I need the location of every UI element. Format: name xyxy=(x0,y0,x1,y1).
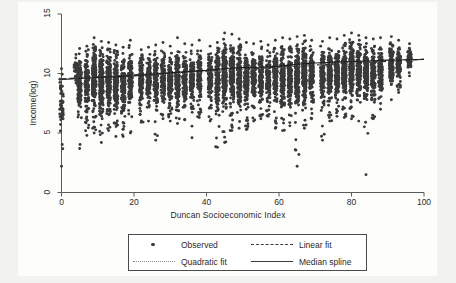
data-point xyxy=(261,87,264,90)
data-point-outlier xyxy=(379,36,382,39)
data-point xyxy=(407,66,410,69)
data-point-outlier xyxy=(223,141,226,144)
data-point xyxy=(224,87,227,90)
data-point xyxy=(79,86,82,89)
data-point-outlier xyxy=(176,122,179,125)
data-point xyxy=(373,45,376,48)
data-point xyxy=(297,104,300,107)
data-point xyxy=(351,94,354,97)
data-point xyxy=(265,91,268,94)
data-point xyxy=(146,85,149,88)
data-point xyxy=(230,59,233,62)
data-point xyxy=(113,108,116,111)
data-point-outlier xyxy=(288,38,291,41)
x-tick-label: 60 xyxy=(267,197,291,207)
data-point-outlier xyxy=(183,42,186,45)
data-point xyxy=(78,60,81,63)
data-point xyxy=(342,80,345,83)
data-point xyxy=(222,100,225,103)
data-point-outlier xyxy=(129,39,132,42)
data-point xyxy=(156,101,159,104)
data-point-outlier xyxy=(147,120,150,123)
data-point-outlier xyxy=(321,40,324,43)
data-point xyxy=(351,48,354,51)
data-point xyxy=(281,87,284,90)
legend-entry-quadratic-fit[interactable]: Quadratic fit xyxy=(131,253,227,270)
data-point xyxy=(183,60,186,63)
data-point xyxy=(279,102,282,105)
data-point-outlier xyxy=(267,115,270,118)
data-point xyxy=(251,71,254,74)
data-point xyxy=(146,90,149,93)
data-point xyxy=(312,98,315,101)
data-point xyxy=(192,85,195,88)
data-point xyxy=(120,87,123,90)
data-point xyxy=(95,69,98,72)
data-point-outlier xyxy=(303,34,306,37)
data-point xyxy=(274,69,277,72)
data-point xyxy=(302,124,305,127)
data-point-outlier xyxy=(372,38,375,41)
legend-entry-median-spline[interactable]: Median spline xyxy=(249,253,351,270)
data-point xyxy=(138,99,141,102)
data-point xyxy=(309,85,312,88)
data-point-outlier xyxy=(336,115,339,118)
data-point xyxy=(280,80,283,83)
data-point xyxy=(273,58,276,61)
data-point xyxy=(279,53,282,56)
data-point-outlier xyxy=(238,38,241,41)
data-point xyxy=(294,138,297,141)
data-point xyxy=(409,62,412,65)
x-tick-label: 20 xyxy=(122,197,146,207)
data-point xyxy=(274,54,277,57)
data-point xyxy=(98,62,101,65)
data-point xyxy=(169,109,172,112)
data-point xyxy=(335,68,338,71)
data-point xyxy=(171,88,174,91)
data-point xyxy=(59,104,62,107)
data-point xyxy=(246,72,249,75)
data-point xyxy=(87,124,90,127)
data-point xyxy=(304,75,307,78)
data-point xyxy=(334,93,337,96)
data-point-outlier xyxy=(198,116,201,119)
data-point xyxy=(265,84,268,87)
data-point xyxy=(208,75,211,78)
data-point xyxy=(288,102,291,105)
data-point xyxy=(231,119,234,122)
data-point-outlier xyxy=(303,127,306,130)
legend-entry-observed[interactable]: Observed xyxy=(131,236,218,253)
data-point-outlier xyxy=(154,43,157,46)
data-point xyxy=(294,112,297,115)
data-point xyxy=(209,106,212,109)
data-point xyxy=(113,59,116,62)
data-point xyxy=(141,81,144,84)
data-point-outlier xyxy=(296,165,299,168)
data-point xyxy=(302,48,305,51)
data-point xyxy=(358,39,361,42)
data-point xyxy=(238,73,241,76)
data-point xyxy=(380,63,383,66)
data-point xyxy=(192,99,195,102)
data-point xyxy=(380,78,383,81)
data-point xyxy=(208,58,211,61)
data-point xyxy=(259,101,262,104)
data-point xyxy=(287,89,290,92)
data-point xyxy=(100,115,103,118)
data-point xyxy=(349,107,352,110)
data-point xyxy=(344,79,347,82)
data-point xyxy=(59,85,62,88)
legend-entry-linear-fit[interactable]: Linear fit xyxy=(249,236,332,253)
data-point xyxy=(100,68,103,71)
data-point xyxy=(260,94,263,97)
data-point xyxy=(344,97,347,100)
data-point xyxy=(127,101,130,104)
data-point xyxy=(280,59,283,62)
data-point xyxy=(321,106,324,109)
data-point xyxy=(109,85,112,88)
data-point xyxy=(94,128,97,131)
data-point xyxy=(303,99,306,102)
data-point xyxy=(105,70,108,73)
data-point-outlier xyxy=(245,41,248,44)
data-point xyxy=(91,81,94,84)
